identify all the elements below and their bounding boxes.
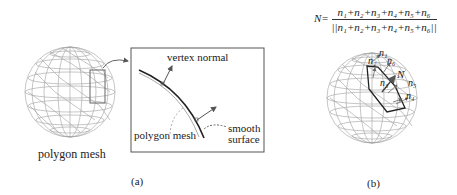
formula-lhs: N= — [314, 12, 329, 24]
caption-b: (b) — [367, 177, 380, 189]
surface-label: surface — [228, 133, 260, 145]
vertex-normal-label: vertex normal — [167, 51, 228, 63]
formula-fraction: n₁+n₂+n₃+n₄+n₅+n₆ ||n₁+n₂+n₃+n₄+n₅+n₆|| — [332, 6, 437, 33]
formula-numerator: n₁+n₂+n₃+n₄+n₅+n₆ — [332, 6, 437, 20]
inset-polygon-mesh-label: polygon mesh — [134, 129, 196, 141]
normal-formula: N= n₁+n₂+n₃+n₄+n₅+n₆ ||n₁+n₂+n₃+n₄+n₅+n₆… — [314, 6, 437, 33]
label-n3: n₃ — [380, 77, 388, 88]
label-n6: n₆ — [387, 55, 395, 66]
label-n5: n₅ — [408, 77, 416, 88]
label-n4: n₄ — [406, 90, 414, 101]
formula-denominator: ||n₁+n₂+n₃+n₄+n₅+n₆|| — [332, 20, 437, 33]
label-N: N — [397, 68, 404, 80]
sphere-label-a: polygon mesh — [38, 147, 106, 162]
label-n2: n₂ — [368, 55, 376, 66]
caption-a: (a) — [131, 175, 143, 187]
